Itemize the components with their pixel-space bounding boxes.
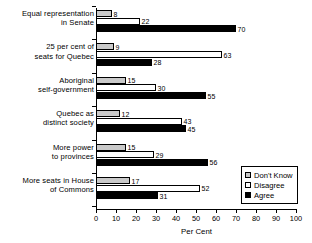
x-axis-tick-label: 100 xyxy=(284,214,308,223)
bar-value-label: 55 xyxy=(208,93,216,100)
category-label: More powerto provinces xyxy=(0,143,94,161)
x-axis-tick xyxy=(256,210,257,213)
category-label: Quebec asdistinct society xyxy=(0,109,94,127)
bar-value-label: 15 xyxy=(128,144,136,151)
category-label: Aboriginalself-government xyxy=(0,76,94,94)
bar xyxy=(96,151,154,158)
bar-value-label: 17 xyxy=(132,178,140,185)
x-axis-tick xyxy=(276,210,277,213)
category-label-line: Equal representation xyxy=(0,9,94,18)
category-label-line: Aboriginal xyxy=(0,76,94,85)
category-label: Equal representationin Senate xyxy=(0,9,94,27)
category-label-line: in Senate xyxy=(0,18,94,27)
x-axis-tick xyxy=(236,210,237,213)
bar xyxy=(96,59,152,66)
bar-value-label: 70 xyxy=(238,26,246,33)
bar xyxy=(96,18,140,25)
legend-label: Agree xyxy=(254,191,274,200)
bar xyxy=(96,77,126,84)
x-axis-tick xyxy=(176,210,177,213)
bar-chart: Equal representationin Senate25 per cent… xyxy=(0,0,312,243)
legend-swatch-icon xyxy=(245,182,251,188)
bar-value-label: 30 xyxy=(158,85,166,92)
bar xyxy=(96,192,158,199)
bar-value-label: 52 xyxy=(202,185,210,192)
bar xyxy=(96,177,130,184)
bar-value-label: 9 xyxy=(116,44,120,51)
bar xyxy=(96,125,186,132)
legend-item: Disagree xyxy=(245,180,293,190)
legend-item: Agree xyxy=(245,190,293,200)
x-axis-tick xyxy=(296,210,297,213)
category-label-line: More power xyxy=(0,143,94,152)
x-axis-tick xyxy=(136,210,137,213)
y-axis-tick xyxy=(92,6,96,7)
x-axis-tick xyxy=(96,210,97,213)
bar-value-label: 31 xyxy=(160,193,168,200)
bar-value-label: 28 xyxy=(154,59,162,66)
bar xyxy=(96,25,236,32)
category-label: 25 per cent ofseats for Quebec xyxy=(0,42,94,60)
category-label-line: Quebec as xyxy=(0,109,94,118)
category-label-line: distinct society xyxy=(0,118,94,127)
bar xyxy=(96,92,206,99)
category-label-line: seats for Quebec xyxy=(0,52,94,61)
x-axis-tick xyxy=(196,210,197,213)
bar-value-label: 45 xyxy=(188,126,196,133)
x-axis-tick xyxy=(216,210,217,213)
category-label: More seats in Houseof Commons xyxy=(0,176,94,194)
bar-value-label: 63 xyxy=(224,52,232,59)
legend-item: Don't Know xyxy=(245,170,293,180)
x-axis-tick xyxy=(116,210,117,213)
legend-label: Disagree xyxy=(254,181,284,190)
bar-value-label: 12 xyxy=(122,111,130,118)
bar-value-label: 29 xyxy=(156,152,164,159)
bar xyxy=(96,10,112,17)
bar xyxy=(96,144,126,151)
x-axis-tick xyxy=(156,210,157,213)
category-label-line: to provinces xyxy=(0,152,94,161)
legend-swatch-icon xyxy=(245,192,251,198)
category-label-line: self-government xyxy=(0,85,94,94)
category-label-line: 25 per cent of xyxy=(0,42,94,51)
bar xyxy=(96,110,120,117)
category-label-line: of Commons xyxy=(0,185,94,194)
bar xyxy=(96,84,156,91)
bar xyxy=(96,185,200,192)
bar xyxy=(96,43,114,50)
bar-value-label: 43 xyxy=(184,118,192,125)
bar-value-label: 8 xyxy=(114,11,118,18)
category-label-line: More seats in House xyxy=(0,176,94,185)
bar xyxy=(96,51,222,58)
legend-label: Don't Know xyxy=(254,171,293,180)
bar-value-label: 22 xyxy=(142,18,150,25)
bar-value-label: 15 xyxy=(128,77,136,84)
chart-legend: Don't KnowDisagreeAgree xyxy=(241,166,298,204)
bar xyxy=(96,118,182,125)
x-axis-title: Per Cent xyxy=(96,227,297,236)
bar-value-label: 56 xyxy=(210,159,218,166)
legend-swatch-icon xyxy=(245,172,251,178)
bar xyxy=(96,159,208,166)
